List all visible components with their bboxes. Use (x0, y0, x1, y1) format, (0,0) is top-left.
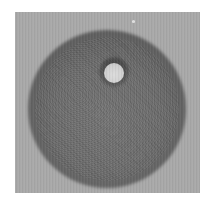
white-speck (132, 20, 135, 23)
photo-background (15, 12, 200, 193)
bright-spot (104, 63, 124, 83)
